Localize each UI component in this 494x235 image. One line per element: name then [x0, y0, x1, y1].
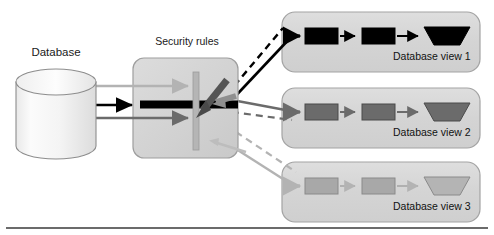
- security-barrier-bar: [193, 72, 199, 150]
- security-rules-label: Security rules: [148, 35, 226, 47]
- process-box[interactable]: [362, 178, 395, 194]
- process-box[interactable]: [305, 104, 338, 120]
- process-box[interactable]: [305, 178, 338, 194]
- cylinder-top: [16, 69, 96, 95]
- process-box[interactable]: [362, 28, 395, 44]
- database-view-3-label: Database view 3: [393, 200, 471, 212]
- database-cylinder[interactable]: [16, 69, 96, 159]
- database-label: Database: [16, 46, 96, 58]
- process-box[interactable]: [305, 28, 338, 44]
- diagram-canvas: Database Security rules Database view 1 …: [0, 0, 494, 235]
- view-panel-2[interactable]: [282, 88, 480, 148]
- database-view-1-label: Database view 1: [393, 50, 471, 62]
- database-view-2-label: Database view 2: [393, 126, 471, 138]
- process-box[interactable]: [362, 104, 395, 120]
- view-panel-1[interactable]: [282, 12, 480, 72]
- view-panel-3[interactable]: [282, 162, 480, 222]
